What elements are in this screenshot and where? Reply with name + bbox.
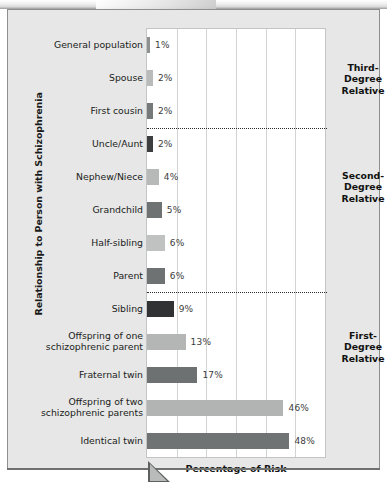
page-bottom-edge xyxy=(7,468,380,470)
category-label-line: Uncle/Aunt xyxy=(0,138,143,150)
bar-rows: 1%General population2%Spouse2%First cous… xyxy=(147,29,325,457)
category-label: Spouse xyxy=(0,73,143,85)
group-label-line-1: First- xyxy=(333,330,387,341)
bar xyxy=(147,301,174,317)
category-label: General population xyxy=(0,40,143,52)
bar-value-label: 6% xyxy=(170,238,185,248)
bar-row: 2%First cousin xyxy=(147,95,325,128)
bar-value-label: 9% xyxy=(179,304,194,314)
category-label: Half-sibling xyxy=(0,237,143,249)
category-label: Grandchild xyxy=(0,204,143,216)
category-label-line: Identical twin xyxy=(0,435,143,447)
bar-value-label: 46% xyxy=(288,403,309,413)
bar-value-label: 1% xyxy=(155,40,170,50)
category-label-line: General population xyxy=(0,40,143,52)
bar-row: 6%Half-sibling xyxy=(147,227,325,260)
figure-page: Relationship to Person with Schizophreni… xyxy=(0,0,387,484)
bar-row: 46%Offspring of twoschizophrenic parents xyxy=(147,391,325,424)
category-label: Identical twin xyxy=(0,435,143,447)
group-label-second-degree: Second- Degree Relative xyxy=(333,170,387,204)
group-label-line-1: Third- xyxy=(333,62,387,73)
bar-row: 5%Grandchild xyxy=(147,194,325,227)
category-label-line: Offspring of two xyxy=(0,396,143,408)
bar-value-label: 6% xyxy=(170,271,185,281)
category-label-line: Fraternal twin xyxy=(0,369,143,381)
page-curl-bottom-corner xyxy=(148,461,174,483)
bar-row: 48%Identical twin xyxy=(147,424,325,457)
category-label-line: Grandchild xyxy=(0,204,143,216)
bar xyxy=(147,268,165,284)
bar-row: 1%General population xyxy=(147,29,325,62)
bar xyxy=(147,367,197,383)
group-label-line-2: Degree xyxy=(333,181,387,192)
chart-panel: Relationship to Person with Schizophreni… xyxy=(7,9,380,469)
category-label-line: Nephew/Niece xyxy=(0,171,143,183)
group-label-line-3: Relative xyxy=(333,353,387,364)
bar xyxy=(147,433,289,449)
group-label-line-1: Second- xyxy=(333,170,387,181)
group-label-line-2: Degree xyxy=(333,341,387,352)
bar xyxy=(147,202,162,218)
category-label: Offspring of oneschizophrenic parent xyxy=(0,330,143,353)
plot-area: 1%General population2%Spouse2%First cous… xyxy=(146,28,326,458)
bar xyxy=(147,70,153,86)
bar xyxy=(147,37,150,53)
group-label-line-3: Relative xyxy=(333,193,387,204)
bar-row: 4%Nephew/Niece xyxy=(147,161,325,194)
bar-row: 2%Spouse xyxy=(147,62,325,95)
category-label: Fraternal twin xyxy=(0,369,143,381)
bar-row: 6%Parent xyxy=(147,259,325,292)
bar-value-label: 13% xyxy=(191,337,212,347)
category-label-line: Parent xyxy=(0,270,143,282)
bar-row: 2%Uncle/Aunt xyxy=(147,128,325,161)
bar-value-label: 4% xyxy=(164,172,179,182)
bar-value-label: 48% xyxy=(294,436,315,446)
category-label-line: Half-sibling xyxy=(0,237,143,249)
bar-value-label: 5% xyxy=(167,205,182,215)
group-label-first-degree: First- Degree Relative xyxy=(333,330,387,364)
category-label: First cousin xyxy=(0,106,143,118)
bar-value-label: 17% xyxy=(202,370,223,380)
category-label: Uncle/Aunt xyxy=(0,138,143,150)
group-label-line-3: Relative xyxy=(333,85,387,96)
category-label-line: Offspring of one xyxy=(0,330,143,342)
bar xyxy=(147,103,153,119)
group-label-third-degree: Third- Degree Relative xyxy=(333,62,387,96)
category-label: Parent xyxy=(0,270,143,282)
category-label: Nephew/Niece xyxy=(0,171,143,183)
category-label-line: Spouse xyxy=(0,73,143,85)
bar-row: 17%Fraternal twin xyxy=(147,358,325,391)
category-label-line: schizophrenic parent xyxy=(0,342,143,354)
bar xyxy=(147,136,153,152)
category-label-line: First cousin xyxy=(0,106,143,118)
bar xyxy=(147,169,159,185)
group-label-line-2: Degree xyxy=(333,73,387,84)
bar xyxy=(147,235,165,251)
category-label: Offspring of twoschizophrenic parents xyxy=(0,396,143,419)
bar-row: 9%Sibling xyxy=(147,292,325,325)
bar-value-label: 2% xyxy=(158,106,173,116)
category-label-line: schizophrenic parents xyxy=(0,408,143,420)
bar-value-label: 2% xyxy=(158,139,173,149)
page-curl-top-highlight xyxy=(96,0,216,9)
bar-value-label: 2% xyxy=(158,73,173,83)
category-label-line: Sibling xyxy=(0,303,143,315)
bar-row: 13%Offspring of oneschizophrenic parent xyxy=(147,325,325,358)
bar xyxy=(147,400,283,416)
category-label: Sibling xyxy=(0,303,143,315)
bar xyxy=(147,334,186,350)
